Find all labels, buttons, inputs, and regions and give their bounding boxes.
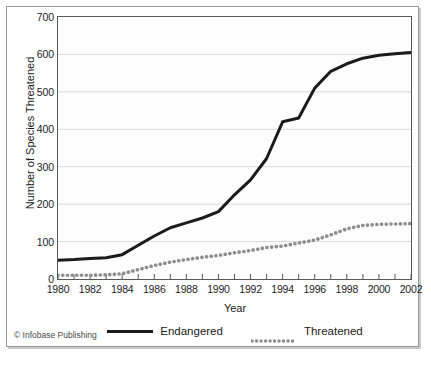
- legend-label-endangered: Endangered: [160, 325, 223, 337]
- legend-entry-threatened: Threatened: [251, 325, 363, 337]
- y-axis-label: Number of Species Threatened: [24, 43, 36, 223]
- dotted-swatch-icon: [251, 339, 297, 343]
- x-axis-label: Year: [57, 302, 413, 314]
- plot-area: [57, 16, 412, 280]
- y-tick-label: 100: [14, 237, 54, 247]
- legend-label-threatened: Threatened: [304, 325, 363, 337]
- copyright-notice: © Infobase Publishing: [14, 330, 97, 340]
- series-line-endangered: [58, 53, 411, 261]
- series-line-threatened: [58, 224, 411, 276]
- legend-swatch-endangered: [107, 330, 153, 333]
- legend-swatch-threatened: [251, 329, 297, 333]
- y-tick-label: 700: [14, 12, 54, 22]
- x-tick-label: 2002: [391, 284, 431, 295]
- chart-legend: Endangered Threatened: [57, 322, 413, 340]
- legend-entry-endangered: Endangered: [107, 325, 223, 337]
- chart-canvas: [58, 17, 411, 279]
- gridlines: [58, 54, 411, 241]
- x-axis-ticks: 1980198219841986198819901992199419961998…: [57, 284, 413, 298]
- figure-frame: 0100200300400500600700 19801982198419861…: [6, 6, 419, 347]
